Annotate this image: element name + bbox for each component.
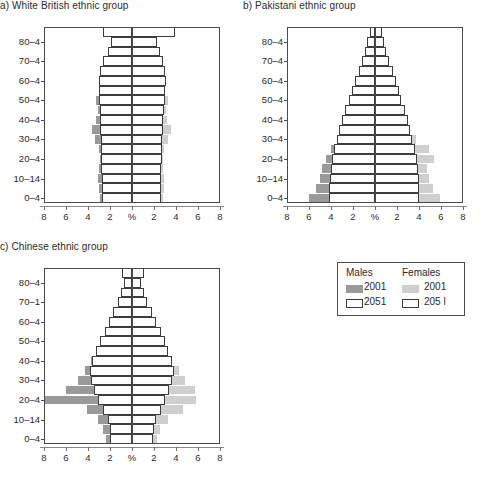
x-axis-label-b-7: 6 <box>429 211 453 222</box>
x-axis-tick-c-4 <box>132 447 133 451</box>
y-axis-tick-b-5 <box>284 139 287 140</box>
y-axis-label-c-6: 20–4 <box>2 394 40 405</box>
x-axis-label-b-4: % <box>363 211 387 222</box>
x-axis-label-c-8: 8 <box>208 452 232 463</box>
y-axis-label-a-5: 30–4 <box>2 133 40 144</box>
x-axis-tick-b-2 <box>331 206 332 210</box>
y-axis-tick-a-5 <box>41 139 44 140</box>
x-axis-tick-a-2 <box>88 206 89 210</box>
x-axis-tick-c-7 <box>198 447 199 451</box>
legend-swatch-female-2001 <box>402 285 419 293</box>
legend-swatch-male-2001 <box>346 285 363 293</box>
x-axis-tick-b-5 <box>397 206 398 210</box>
y-axis-label-b-6: 20–4 <box>245 153 283 164</box>
legend-label-female-2051: 205 l <box>424 296 446 307</box>
y-axis-tick-c-2 <box>41 322 44 323</box>
y-axis-label-b-3: 50–4 <box>245 94 283 105</box>
y-axis-label-a-6: 20–4 <box>2 153 40 164</box>
x-axis-tick-b-3 <box>353 206 354 210</box>
y-axis-tick-b-1 <box>284 61 287 62</box>
x-axis-label-a-5: 2 <box>142 211 166 222</box>
x-axis-label-b-8: 8 <box>451 211 475 222</box>
y-axis-tick-c-1 <box>41 302 44 303</box>
x-axis-tick-b-1 <box>309 206 310 210</box>
x-axis-tick-c-1 <box>66 447 67 451</box>
y-axis-tick-c-0 <box>41 283 44 284</box>
x-axis-tick-c-2 <box>88 447 89 451</box>
x-axis-label-c-5: 2 <box>142 452 166 463</box>
y-axis-tick-c-6 <box>41 400 44 401</box>
plot-frame-top-c <box>44 268 220 444</box>
y-axis-tick-b-8 <box>284 198 287 199</box>
y-axis-label-b-0: 80–4 <box>245 36 283 47</box>
x-axis-label-a-7: 6 <box>186 211 210 222</box>
legend-box: Males Females 2001 2001 2051 205 l <box>337 262 465 316</box>
x-axis-tick-c-6 <box>176 447 177 451</box>
y-axis-tick-c-4 <box>41 361 44 362</box>
x-axis-label-c-4: % <box>120 452 144 463</box>
x-axis-tick-b-8 <box>463 206 464 210</box>
y-axis-tick-c-7 <box>41 420 44 421</box>
x-axis-tick-a-0 <box>44 206 45 210</box>
x-axis-tick-c-0 <box>44 447 45 451</box>
panel-chinese: c) Chinese ethnic group 80–470–160–450–4… <box>0 241 243 482</box>
y-axis-tick-b-0 <box>284 42 287 43</box>
x-axis-tick-a-8 <box>220 206 221 210</box>
x-axis-tick-a-3 <box>110 206 111 210</box>
y-axis-label-c-4: 40–4 <box>2 355 40 366</box>
legend-females-header: Females <box>402 267 440 278</box>
x-axis-tick-b-6 <box>419 206 420 210</box>
legend-label-male-2001: 2001 <box>364 281 386 292</box>
x-axis-tick-a-4 <box>132 206 133 210</box>
y-axis-label-b-1: 70–4 <box>245 55 283 66</box>
panel-c-plot: 80–470–160–450–440–430–420–410–140–48642… <box>0 241 243 482</box>
legend-swatch-female-2051 <box>402 299 419 308</box>
y-axis-tick-b-7 <box>284 179 287 180</box>
y-axis-tick-b-4 <box>284 120 287 121</box>
y-axis-tick-c-3 <box>41 341 44 342</box>
panel-b-plot: 80–470–460–450–440–430–420–410–140–48642… <box>243 0 486 241</box>
y-axis-label-b-5: 30–4 <box>245 133 283 144</box>
x-axis-label-a-6: 4 <box>164 211 188 222</box>
x-axis-label-a-2: 4 <box>76 211 100 222</box>
x-axis-label-a-0: 8 <box>32 211 56 222</box>
x-axis-tick-a-5 <box>154 206 155 210</box>
x-axis-label-b-0: 8 <box>275 211 299 222</box>
x-axis-label-c-2: 4 <box>76 452 100 463</box>
x-axis-label-b-6: 4 <box>407 211 431 222</box>
legend-males-header: Males <box>346 267 373 278</box>
y-axis-tick-b-3 <box>284 100 287 101</box>
y-axis-label-a-8: 0–4 <box>2 192 40 203</box>
y-axis-label-c-2: 60–4 <box>2 316 40 327</box>
y-axis-tick-a-2 <box>41 81 44 82</box>
x-axis-label-a-3: 2 <box>98 211 122 222</box>
y-axis-label-c-1: 70–1 <box>2 296 40 307</box>
y-axis-label-c-7: 10–14 <box>2 414 40 425</box>
legend-label-female-2001: 2001 <box>424 281 446 292</box>
y-axis-label-a-4: 40–4 <box>2 114 40 125</box>
panel-white-british: a) White British ethnic group 80–470–460… <box>0 0 243 241</box>
panel-a-plot: 80–470–460–450–440–430–420–410–140–48642… <box>0 0 243 241</box>
x-axis-label-b-5: 2 <box>385 211 409 222</box>
y-axis-label-a-1: 70–4 <box>2 55 40 66</box>
x-axis-tick-c-8 <box>220 447 221 451</box>
x-axis-label-c-0: 8 <box>32 452 56 463</box>
y-axis-tick-c-8 <box>41 439 44 440</box>
x-axis-label-a-8: 8 <box>208 211 232 222</box>
x-axis-label-a-4: % <box>120 211 144 222</box>
x-axis-tick-c-5 <box>154 447 155 451</box>
panel-pakistani: b) Pakistani ethnic group 80–470–460–450… <box>243 0 486 241</box>
x-axis-tick-a-6 <box>176 206 177 210</box>
x-axis-label-b-3: 2 <box>341 211 365 222</box>
x-axis-tick-b-0 <box>287 206 288 210</box>
x-axis-tick-a-1 <box>66 206 67 210</box>
y-axis-tick-a-8 <box>41 198 44 199</box>
y-axis-label-c-8: 0–4 <box>2 433 40 444</box>
y-axis-label-a-2: 60–4 <box>2 75 40 86</box>
x-axis-label-c-1: 6 <box>54 452 78 463</box>
x-axis-tick-c-3 <box>110 447 111 451</box>
y-axis-tick-a-7 <box>41 179 44 180</box>
y-axis-label-a-0: 80–4 <box>2 36 40 47</box>
x-axis-label-b-1: 6 <box>297 211 321 222</box>
y-axis-tick-b-6 <box>284 159 287 160</box>
